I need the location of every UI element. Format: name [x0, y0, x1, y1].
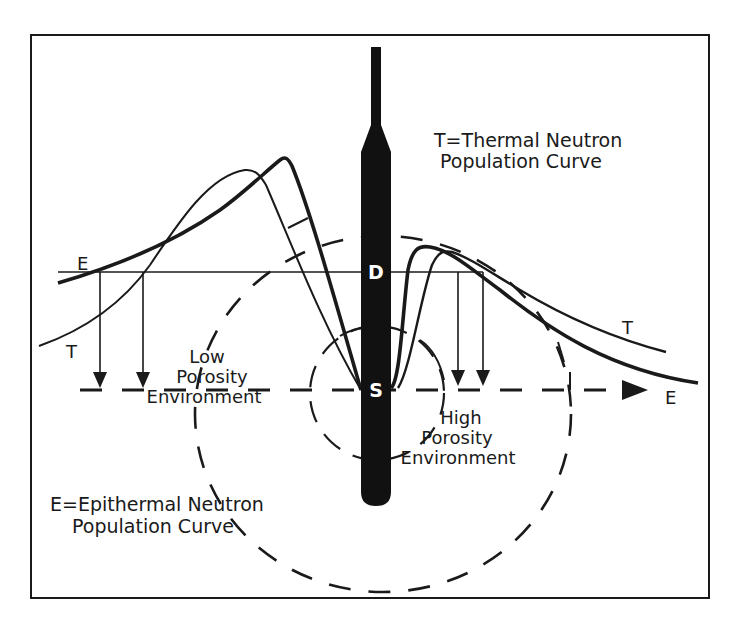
high-porosity-line2: Porosity	[421, 427, 493, 448]
right-T-label: T	[621, 317, 634, 338]
thermal-legend-line1: T=Thermal Neutron	[433, 129, 622, 151]
detector-label: D	[368, 261, 384, 283]
arrowhead-icon	[451, 370, 465, 386]
high-porosity-line1: High	[440, 407, 481, 428]
epithermal-legend-line2: Population Curve	[72, 515, 234, 537]
epithermal-curve-right	[391, 247, 698, 388]
thermal-legend-line2: Population Curve	[440, 150, 602, 172]
high-porosity-line3: Environment	[401, 447, 516, 468]
arrowhead-icon	[93, 372, 107, 388]
left-T-label: T	[65, 341, 78, 362]
arrowhead-icon	[476, 370, 490, 386]
source-label: S	[369, 379, 383, 401]
low-porosity-line1: Low	[189, 346, 224, 367]
axis-E-label: E	[665, 387, 676, 408]
axis-arrowhead-icon	[622, 380, 648, 400]
low-porosity-line3: Environment	[147, 386, 262, 407]
low-porosity-line2: Porosity	[176, 366, 248, 387]
curve-tick	[288, 218, 308, 228]
left-E-label: E	[77, 253, 88, 274]
epithermal-legend-line1: E=Epithermal Neutron	[50, 493, 264, 515]
neutron-porosity-diagram: D S T=Thermal Neutron Population Curve E…	[0, 0, 737, 629]
